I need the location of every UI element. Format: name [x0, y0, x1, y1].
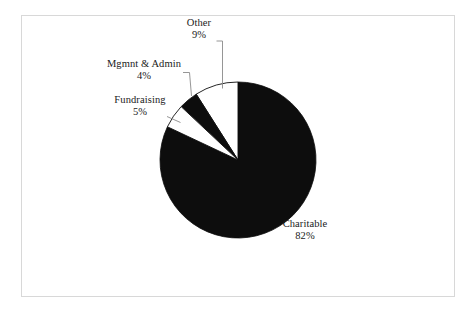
pie-label-fundraising-name: Fundraising	[92, 94, 188, 106]
pie-label-fundraising: Fundraising 5%	[92, 94, 188, 119]
pie-label-charitable-percent: 82%	[262, 230, 348, 242]
pie-label-mgmnt-admin: Mgmnt & Admin 4%	[86, 58, 202, 83]
pie-label-charitable: Charitable 82%	[262, 218, 348, 243]
pie-chart-screenshot: Other 9% Mgmnt & Admin 4% Fundraising 5%…	[0, 0, 476, 316]
pie-label-other-name: Other	[164, 17, 234, 29]
pie-label-mgmnt-admin-name: Mgmnt & Admin	[86, 58, 202, 70]
pie-label-fundraising-percent: 5%	[92, 106, 188, 118]
pie-label-mgmnt-admin-percent: 4%	[86, 70, 202, 82]
pie-label-other: Other 9%	[164, 17, 234, 42]
pie-label-charitable-name: Charitable	[262, 218, 348, 230]
leader-line-other	[217, 41, 223, 89]
pie-label-other-percent: 9%	[164, 29, 234, 41]
pie-chart-graphic	[0, 0, 476, 316]
